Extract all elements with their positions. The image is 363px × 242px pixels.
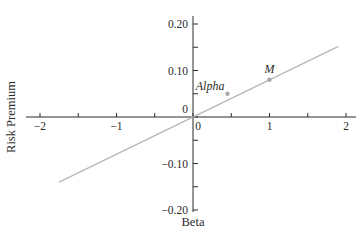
points: AlphaM [195,62,276,96]
data-point-m [267,78,271,82]
series [59,46,338,182]
y-axis-label: Risk Premium [4,81,18,153]
security-market-line [59,46,338,182]
x-tick-label: 0 [195,120,201,132]
y-tick-label: 0.20 [168,18,188,30]
point-label-alpha: Alpha [195,79,225,93]
x-tick-label: −2 [34,120,46,132]
x-tick-label: −1 [110,120,122,132]
data-point-alpha [225,92,229,96]
axes [26,16,356,212]
x-tick-label: 1 [267,120,273,132]
y-tick-label: 0.10 [168,65,188,77]
y-tick-label: −0.10 [161,158,188,170]
x-axis-label: Beta [182,215,205,229]
x-tick-label: 2 [343,120,349,132]
chart: −2−10120.200.100−0.10−0.20 AlphaM Beta R… [0,0,363,242]
point-label-m: M [264,62,276,76]
y-tick-label: 0 [182,103,188,115]
